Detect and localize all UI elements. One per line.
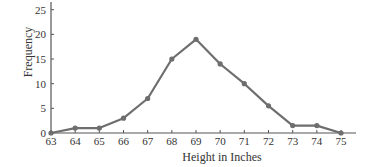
x-tick-label: 63: [46, 135, 58, 147]
y-tick-label: 15: [35, 53, 47, 65]
data-point-marker: [242, 81, 247, 86]
series-line: [51, 39, 341, 133]
x-tick-label: 67: [142, 135, 154, 147]
data-point-marker: [121, 116, 126, 121]
frequency-polygon-chart: 0510152025 63646566676869707172737475 He…: [0, 0, 375, 167]
data-point-marker: [97, 125, 102, 130]
x-tick-label: 71: [239, 135, 250, 147]
x-tick-label: 74: [311, 135, 323, 147]
data-point-marker: [266, 103, 271, 108]
x-tick-label: 75: [336, 135, 348, 147]
x-tick-label: 70: [215, 135, 227, 147]
data-point-marker: [145, 96, 150, 101]
data-point-marker: [48, 130, 53, 135]
x-axis-label: Height in Inches: [182, 150, 262, 164]
data-point-marker: [218, 61, 223, 66]
data-point-marker: [338, 130, 343, 135]
x-tick-label: 69: [191, 135, 203, 147]
data-point-marker: [73, 125, 78, 130]
x-tick-label: 72: [263, 135, 274, 147]
y-axis-label: Frequency: [21, 27, 35, 78]
x-axis: 63646566676869707172737475: [46, 130, 357, 147]
data-point-marker: [193, 37, 198, 42]
x-tick-label: 64: [70, 135, 82, 147]
data-series: [48, 37, 343, 136]
y-tick-label: 20: [35, 28, 47, 40]
data-point-marker: [169, 56, 174, 61]
x-tick-label: 68: [166, 135, 178, 147]
x-tick-label: 73: [287, 135, 299, 147]
data-point-marker: [290, 123, 295, 128]
y-tick-label: 25: [35, 4, 47, 16]
y-tick-label: 5: [41, 102, 47, 114]
y-tick-label: 10: [35, 78, 47, 90]
y-axis: 0510152025: [35, 2, 54, 139]
x-tick-label: 65: [94, 135, 106, 147]
data-point-marker: [314, 123, 319, 128]
x-tick-label: 66: [118, 135, 130, 147]
